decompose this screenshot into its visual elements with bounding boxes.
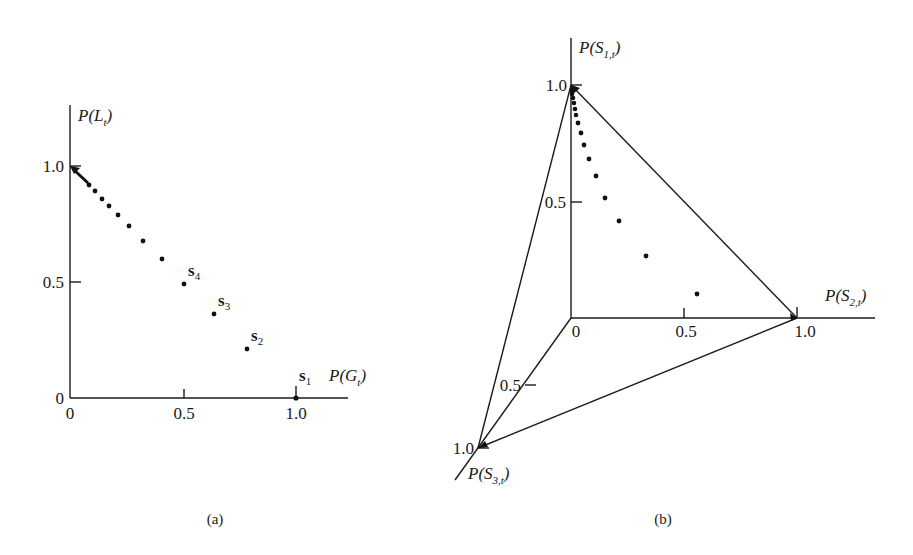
label-s2: s2 xyxy=(251,326,263,347)
x-tick-label-0.5: 0.5 xyxy=(173,404,194,423)
y-axis-title: P(Lt) xyxy=(77,106,113,128)
s1-axis-title: P(S1,t) xyxy=(578,38,621,60)
x-axis-title: P(Gt) xyxy=(328,366,366,388)
x-tick-label-1.0: 1.0 xyxy=(285,404,306,423)
s1-tick-label-0.5: 0.5 xyxy=(545,193,566,212)
s2-axis-title: P(S2,t) xyxy=(824,286,867,308)
s2-tick-label-0.5: 0.5 xyxy=(675,322,696,341)
x-tick-label-0: 0 xyxy=(66,404,75,423)
label-s3: s3 xyxy=(218,291,231,312)
y-tick-label-0: 0 xyxy=(56,389,65,408)
s2-tick-label-0: 0 xyxy=(572,322,581,341)
trajectory-points-b xyxy=(570,88,700,297)
s1-tick-label-1.0: 1.0 xyxy=(546,76,567,95)
s3-tick-label-1.0: 1.0 xyxy=(453,439,474,458)
caption-b: (b) xyxy=(654,511,672,528)
simplex-edge-s1-s2 xyxy=(571,85,797,318)
label-s1: s1 xyxy=(299,366,311,387)
trajectory-points xyxy=(87,183,299,401)
s3-axis-title: P(S3,t) xyxy=(467,464,510,486)
caption-a: (a) xyxy=(207,511,224,528)
figure-canvas: 0 0.5 1.0 0 0.5 1.0 P(Lt) P(Gt) s4 s xyxy=(0,0,913,555)
y-tick-label-1.0: 1.0 xyxy=(43,157,64,176)
panel-b: 1.0 0.5 0 0.5 1.0 0.5 1.0 P(S1,t) P(S2,t… xyxy=(453,38,875,528)
label-s4: s4 xyxy=(188,261,201,282)
simplex-edge-s2-s3 xyxy=(478,318,797,448)
s3-tick-label-0.5: 0.5 xyxy=(500,376,521,395)
panel-a: 0 0.5 1.0 0 0.5 1.0 P(Lt) P(Gt) s4 s xyxy=(43,105,367,528)
simplex-edge-s3-s1 xyxy=(478,85,571,448)
y-tick-label-0.5: 0.5 xyxy=(43,273,64,292)
s2-tick-label-1.0: 1.0 xyxy=(794,322,815,341)
